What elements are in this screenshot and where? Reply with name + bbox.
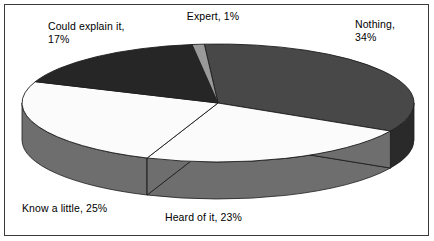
pie-slice-label-expert: Expert, 1% [163,10,263,23]
pie-slice-label-know-a-little: Know a little, 25% [22,202,162,215]
pie-slice-label-heard-of-it: Heard of it, 23% [165,211,295,224]
pie-chart-figure: Could explain it, 17% Expert, 1% Nothing… [0,0,434,241]
pie-slice-label-could-explain-it: Could explain it, 17% [48,20,158,46]
pie-slice-label-nothing: Nothing, 34% [355,18,425,44]
